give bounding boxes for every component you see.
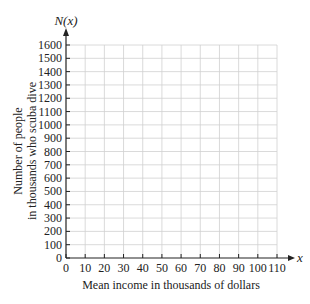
y-tick-label: 1600: [38, 38, 62, 52]
y-axis-title-line-2: in thousands who scuba dive: [25, 82, 39, 220]
x-tick-labels: 0102030405060708090100110: [63, 261, 286, 275]
y-tick-label: 1100: [38, 105, 62, 119]
y-tick-label: 500: [44, 184, 62, 198]
y-tick-label: 800: [44, 145, 62, 159]
chart: 0102030405060708090100110 01002003004005…: [0, 0, 310, 304]
x-tick-label: 70: [194, 261, 206, 275]
y-tick-label: 1500: [38, 51, 62, 65]
x-tick-label: 90: [233, 261, 245, 275]
x-axis-variable-label: x: [296, 250, 303, 265]
x-tick-label: 20: [98, 261, 110, 275]
y-tick-label: 1000: [38, 118, 62, 132]
x-tick-label: 110: [268, 261, 286, 275]
x-tick-label: 60: [175, 261, 187, 275]
y-tick-label: 600: [44, 171, 62, 185]
y-tick-label: 400: [44, 198, 62, 212]
y-tick-label: 900: [44, 131, 62, 145]
y-axis-variable-label: N(x): [53, 13, 77, 28]
x-tick-label: 30: [118, 261, 130, 275]
chart-canvas: 0102030405060708090100110 01002003004005…: [0, 0, 310, 304]
x-tick-label: 100: [249, 261, 267, 275]
y-tick-label: 0: [56, 251, 62, 265]
x-tick-label: 80: [213, 261, 225, 275]
y-axis-title-line-1: Number of people: [11, 107, 25, 194]
y-tick-label: 1200: [38, 91, 62, 105]
y-tick-label: 300: [44, 211, 62, 225]
grid-lines: [66, 45, 277, 258]
y-tick-label: 200: [44, 224, 62, 238]
x-axis-arrow-icon: [288, 255, 295, 261]
x-axis-title: Mean income in thousands of dollars: [82, 278, 260, 292]
x-tick-label: 10: [79, 261, 91, 275]
y-tick-label: 1400: [38, 65, 62, 79]
axes: [63, 28, 295, 261]
y-axis-arrow-icon: [63, 28, 69, 36]
y-axis-title: Number of people in thousands who scuba …: [11, 82, 39, 220]
x-tick-label: 0: [63, 261, 69, 275]
y-tick-labels: 0100200300400500600700800900100011001200…: [38, 38, 62, 265]
x-tick-label: 50: [156, 261, 168, 275]
y-tick-label: 1300: [38, 78, 62, 92]
y-tick-label: 100: [44, 238, 62, 252]
x-tick-label: 40: [137, 261, 149, 275]
y-tick-label: 700: [44, 158, 62, 172]
